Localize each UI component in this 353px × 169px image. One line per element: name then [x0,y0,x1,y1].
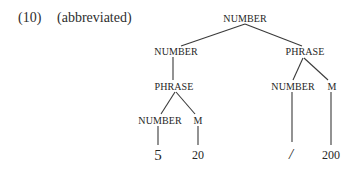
node-left-phrase-m: M [194,115,203,126]
node-right-m: M [328,81,337,92]
node-root-number: NUMBER [223,13,266,24]
edge-right-phrase-number [293,58,303,80]
leaf-20: 20 [192,148,204,163]
edge-root-left [181,24,245,46]
node-right-number: NUMBER [271,81,314,92]
leaf-200: 200 [322,148,340,163]
node-left-phrase-number: NUMBER [138,115,181,126]
leaf-5: 5 [154,147,162,164]
node-left-phrase: PHRASE [155,81,194,92]
leaf-slash: / [289,146,293,163]
edge-right-phrase-m [304,58,328,80]
edge-root-right [245,24,302,46]
node-left-number: NUMBER [154,46,197,57]
edge-left-phrase-number [161,92,175,114]
edge-left-phrase-m [176,92,195,114]
node-right-phrase: PHRASE [286,46,325,57]
